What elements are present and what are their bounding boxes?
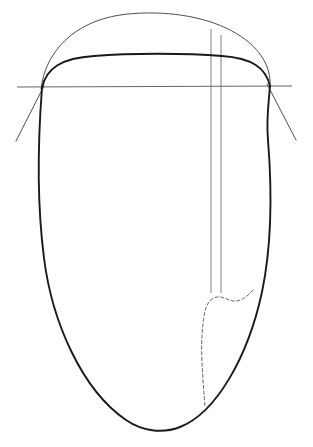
figure-root: Ovoid cross-section construction drawing…	[0, 0, 313, 447]
diagram-canvas: Ovoid cross-section construction drawing…	[0, 0, 313, 447]
